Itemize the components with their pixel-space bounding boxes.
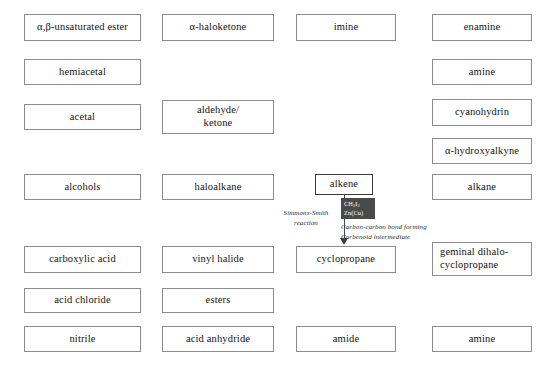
node-label: acetal — [28, 111, 137, 123]
node-amine-top[interactable]: amine — [432, 59, 532, 85]
node-label: acid chloride — [28, 294, 137, 306]
node-label: cyanohydrin — [436, 106, 528, 118]
node-label: alkane — [436, 181, 528, 193]
node-alkene[interactable]: alkene — [315, 174, 373, 195]
node-cyanohydrin[interactable]: cyanohydrin — [432, 99, 532, 126]
node-label: amide — [300, 333, 392, 345]
mechanism-notes-annotation: Carbon-carbon bond forming Carbenoid int… — [341, 222, 491, 242]
node-carboxylic-acid[interactable]: carboxylic acid — [24, 246, 141, 273]
node-label: aldehyde/ ketone — [166, 104, 270, 130]
node-label: α-hydroxyalkyne — [436, 145, 528, 157]
node-label: carboxylic acid — [28, 253, 137, 265]
node-label: hemiacetal — [28, 66, 137, 78]
node-label: amine — [436, 333, 528, 345]
node-acid-anhydride[interactable]: acid anhydride — [162, 326, 274, 352]
reaction-name-line-1: Simmons-Smith — [272, 208, 340, 218]
node-amine-bottom[interactable]: amine — [432, 326, 532, 352]
mechanism-note-line-1: Carbon-carbon bond forming — [341, 222, 491, 232]
node-label: cyclopropane — [300, 253, 392, 265]
node-alcohols[interactable]: alcohols — [24, 174, 141, 200]
node-alkane[interactable]: alkane — [432, 174, 532, 200]
node-label: nitrile — [28, 333, 137, 345]
node-vinyl-halide[interactable]: vinyl halide — [162, 246, 274, 273]
node-label: enamine — [436, 21, 528, 33]
node-haloalkane[interactable]: haloalkane — [162, 174, 274, 200]
node-alpha-beta-unsaturated-ester[interactable]: α,β-unsaturated ester — [24, 14, 141, 41]
node-cyclopropane[interactable]: cyclopropane — [296, 246, 396, 273]
node-label: vinyl halide — [166, 253, 270, 265]
reagent-conditions-box: CH2I2 Zn(Cu) — [341, 198, 375, 219]
node-imine[interactable]: imine — [296, 14, 396, 41]
node-aldehyde-ketone[interactable]: aldehyde/ ketone — [162, 100, 274, 134]
node-label: haloalkane — [166, 181, 270, 193]
node-esters[interactable]: esters — [162, 288, 274, 313]
node-label: esters — [166, 294, 270, 306]
node-label: geminal dihalo- cyclopropane — [440, 246, 528, 272]
mechanism-note-line-2: Carbenoid intermediate — [341, 232, 491, 242]
reaction-name-annotation: Simmons-Smith reaction — [272, 208, 340, 228]
node-amide[interactable]: amide — [296, 326, 396, 352]
reagent-formula-line-1: CH2I2 — [344, 200, 372, 209]
node-enamine[interactable]: enamine — [432, 14, 532, 41]
node-geminal-dihalocyclopropane[interactable]: geminal dihalo- cyclopropane — [432, 242, 532, 276]
node-label: imine — [300, 21, 392, 33]
reaction-name-line-2: reaction — [272, 218, 340, 228]
node-label: α-haloketone — [166, 21, 270, 33]
node-acetal[interactable]: acetal — [24, 104, 141, 130]
node-label: amine — [436, 66, 528, 78]
node-label: acid anhydride — [166, 333, 270, 345]
node-nitrile[interactable]: nitrile — [24, 326, 141, 352]
node-hemiacetal[interactable]: hemiacetal — [24, 59, 141, 85]
node-label: α,β-unsaturated ester — [28, 21, 137, 33]
reaction-map-canvas: amineamideacid anhydridenitrileestersaci… — [0, 0, 545, 365]
node-label: alkene — [319, 178, 369, 190]
node-alpha-haloketone[interactable]: α-haloketone — [162, 14, 274, 41]
node-alpha-hydroxyalkyne[interactable]: α-hydroxyalkyne — [432, 138, 532, 164]
node-acid-chloride[interactable]: acid chloride — [24, 288, 141, 313]
node-label: alcohols — [28, 181, 137, 193]
reagent-formula-line-2: Zn(Cu) — [344, 209, 372, 217]
